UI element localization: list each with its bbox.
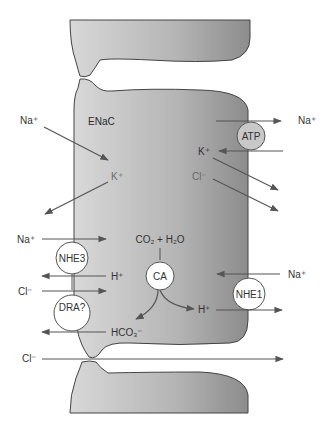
k-apical-label: K⁺ <box>111 171 123 182</box>
bottom-cell <box>70 361 248 413</box>
co2-h2o-label: CO₂ + H₂O <box>135 234 184 245</box>
ion-transport-diagram: ENaC Na⁺ K⁺ Na⁺ ATP K⁺ Cl⁻ Na⁺ NHE3 H⁺ C… <box>0 0 336 431</box>
top-cell <box>70 20 250 77</box>
dra-ae1-transporter <box>54 295 90 331</box>
h-ca-label: H⁺ <box>198 304 210 315</box>
cl-paracellular-label: Cl⁻ <box>22 353 36 364</box>
ca-label: CA <box>153 271 167 282</box>
cl-basolateral-label: Cl⁻ <box>192 171 206 182</box>
hco3-label: HCO₃⁻ <box>111 327 142 338</box>
na-nhe1-label: Na⁺ <box>288 269 306 280</box>
dra-label: DRA? <box>59 302 86 313</box>
enac-label: ENaC <box>88 116 115 127</box>
na-apical-label: Na⁺ <box>20 115 38 126</box>
cl-dra-label: Cl⁻ <box>18 286 32 297</box>
h-nhe3-label: H⁺ <box>111 271 123 282</box>
nhe3-label: NHE3 <box>59 253 86 264</box>
k-basolateral-label: K⁺ <box>198 146 210 157</box>
nhe1-label: NHE1 <box>236 289 263 300</box>
na-basolateral-label: Na⁺ <box>298 115 316 126</box>
na-nhe3-label: Na⁺ <box>17 234 35 245</box>
atp-label: ATP <box>242 131 261 142</box>
